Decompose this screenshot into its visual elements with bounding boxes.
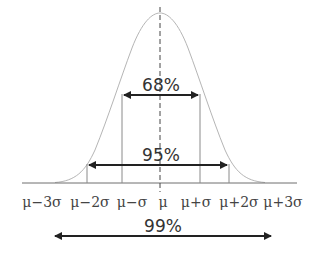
tick-label-mu-plus-2sigma: μ+2σ: [219, 194, 259, 210]
range-label-99: 99%: [144, 216, 182, 236]
tick-label-mu: μ: [158, 194, 167, 210]
tick-label-mu-plus-sigma: μ+σ: [181, 194, 212, 210]
tick-label-mu-minus-3sigma: μ−3σ: [22, 194, 62, 210]
range-label-95: 95%: [142, 145, 180, 165]
normal-distribution-diagram: 68% 95% μ−3σ μ−2σ μ−σ μ μ+σ μ+2σ μ+3σ 99…: [0, 0, 316, 256]
tick-label-mu-minus-2sigma: μ−2σ: [70, 194, 110, 210]
range-label-68: 68%: [142, 75, 180, 95]
tick-label-mu-minus-sigma: μ−σ: [117, 194, 148, 210]
tick-label-mu-plus-3sigma: μ+3σ: [263, 194, 303, 210]
